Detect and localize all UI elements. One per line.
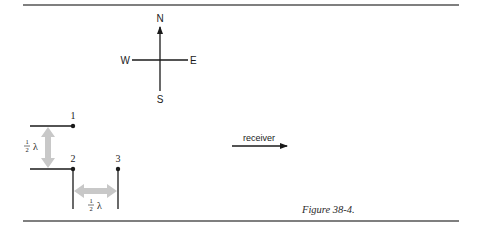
antenna-3: 3 <box>116 153 121 209</box>
horizontal-spacing-arrow: 1 2 λ <box>74 184 117 212</box>
compass-north-label: N <box>156 13 163 24</box>
antenna-2-label: 2 <box>71 153 76 164</box>
compass-rose: N S W E <box>121 13 197 105</box>
antenna-1: 1 <box>30 110 76 128</box>
compass-south-label: S <box>157 94 164 105</box>
antenna-2: 2 <box>30 153 76 209</box>
vertical-spacing-numerator: 1 <box>25 138 28 145</box>
double-arrow-vertical-icon <box>41 127 55 168</box>
horizontal-spacing-numerator: 1 <box>89 197 92 204</box>
antenna-1-feed-dot <box>71 124 75 128</box>
figure-caption: Figure 38-4. <box>301 204 355 215</box>
antenna-2-feed-dot <box>71 167 75 171</box>
receiver-label: receiver <box>243 133 275 143</box>
double-arrow-horizontal-icon <box>74 184 117 198</box>
vertical-spacing-denominator: 2 <box>25 146 28 153</box>
horizontal-spacing-denominator: 2 <box>89 205 92 212</box>
figure-canvas: N S W E 1 2 3 1 2 λ 1 2 λ re <box>0 0 485 234</box>
receiver-arrow: receiver <box>232 133 287 146</box>
antenna-3-label: 3 <box>116 153 121 164</box>
vertical-spacing-lambda: λ <box>33 141 38 152</box>
vertical-spacing-arrow: 1 2 λ <box>24 127 55 168</box>
compass-east-label: E <box>190 55 197 66</box>
horizontal-spacing-lambda: λ <box>97 200 102 211</box>
antenna-1-label: 1 <box>71 110 76 121</box>
compass-west-label: W <box>121 55 131 66</box>
antenna-3-feed-dot <box>116 167 120 171</box>
